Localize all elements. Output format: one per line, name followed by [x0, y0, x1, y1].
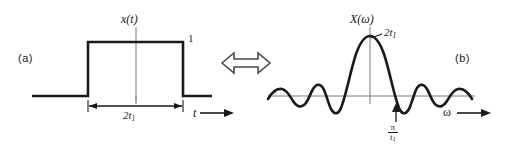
- zero-crossing-denominator-subscript: 1: [393, 135, 396, 142]
- panel-a-dimension-arrow-left-icon: [89, 103, 97, 109]
- panel-a-plot: [32, 27, 234, 117]
- panel-a-amplitude-label: 1: [188, 33, 194, 44]
- panel-a-t-axis-arrow-head-icon: [224, 109, 234, 117]
- fourier-transform-pair-figure: (a) x(t) 1 2t1 t (b) X(ω) 2t1 π t1 ω: [0, 0, 505, 147]
- panel-a-vertical-axis-label: x(t): [121, 13, 138, 25]
- zero-crossing-denominator: t1: [388, 133, 398, 143]
- panel-a-width-label-subscript: 1: [132, 114, 136, 123]
- panel-b-tag: (b): [455, 53, 470, 64]
- zero-crossing-fraction: π t1: [388, 123, 398, 143]
- panel-a-width-label: 2t1: [123, 110, 135, 122]
- panel-b-peak-label: 2t1: [384, 27, 396, 39]
- panel-a-pulse-curve: [32, 42, 212, 96]
- panel-b-zero-crossing-label: π t1: [388, 123, 398, 143]
- panel-b-peak-label-main: 2t: [384, 26, 393, 38]
- panel-a-tag: (a): [18, 53, 33, 64]
- panel-a-horizontal-axis-label: t: [193, 107, 196, 119]
- panel-b-plot: [268, 27, 491, 122]
- figure-vector-layer: [0, 0, 505, 147]
- panel-b-horizontal-axis-label: ω: [443, 106, 451, 118]
- panel-b-peak-label-subscript: 1: [393, 31, 397, 40]
- panel-a-dimension-arrow-right-icon: [174, 103, 182, 109]
- transform-pair-arrow-icon: [222, 53, 270, 73]
- panel-a-width-label-main: 2t: [123, 109, 132, 121]
- panel-b-omega-axis-arrow-head-icon: [481, 109, 491, 117]
- panel-b-vertical-axis-label: X(ω): [350, 13, 374, 25]
